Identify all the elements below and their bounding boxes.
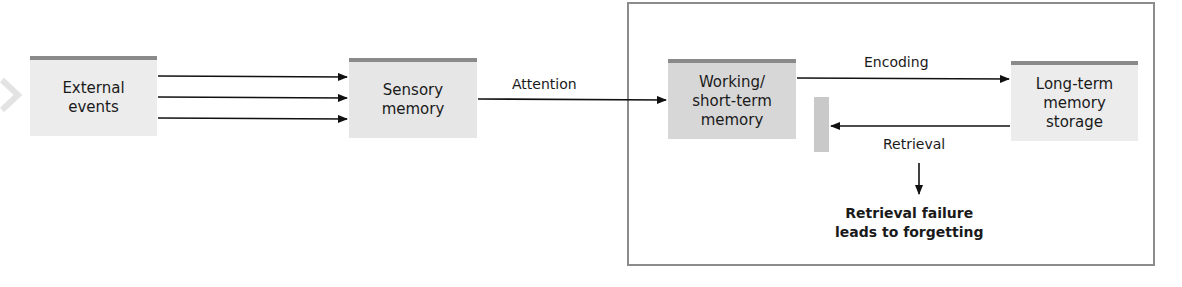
arrow-encoding — [797, 78, 1009, 79]
arrow-external-to-sensory-1 — [158, 76, 347, 77]
arrow-external-to-sensory-3 — [158, 118, 347, 119]
arrows-layer — [0, 0, 1182, 287]
arrow-attention — [478, 99, 666, 100]
arrow-external-to-sensory-2 — [158, 97, 347, 98]
